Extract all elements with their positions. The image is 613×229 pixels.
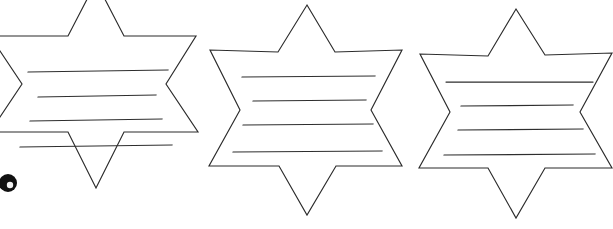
star-2-writing-line-2 <box>253 100 366 101</box>
star-outline-2 <box>209 5 402 215</box>
star-outline-3 <box>419 9 612 218</box>
star-3-writing-line-3 <box>458 129 583 130</box>
star-group-2 <box>209 5 402 215</box>
scan-blob-inner <box>7 182 13 188</box>
star-outline-1 <box>0 0 198 188</box>
scanned-page: Three hand-drawn six-pointed star outlin… <box>0 0 613 229</box>
scan-canvas <box>0 0 613 229</box>
star-1-writing-line-2 <box>38 95 156 97</box>
star-group-3 <box>419 9 612 218</box>
star-2-writing-line-3 <box>243 124 373 125</box>
scan-blob-icon <box>0 174 17 192</box>
star-3-writing-line-2 <box>461 105 573 106</box>
star-1-writing-line-1 <box>28 70 168 72</box>
star-3-writing-line-4 <box>444 154 595 155</box>
star-2-writing-line-1 <box>242 76 375 77</box>
star-1-writing-line-4 <box>20 145 172 147</box>
star-1-writing-line-3 <box>30 119 162 121</box>
star-group-1 <box>0 0 198 188</box>
star-2-writing-line-4 <box>233 151 382 152</box>
